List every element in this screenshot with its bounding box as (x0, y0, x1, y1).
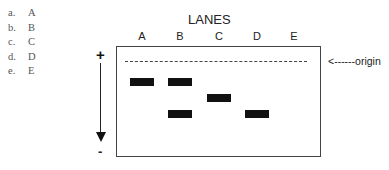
lane-label-b: B (170, 30, 190, 42)
lane-label-a: A (132, 30, 152, 42)
origin-line (125, 61, 307, 62)
option-d[interactable]: d.D (8, 50, 36, 65)
migration-arrow-shaft (100, 63, 101, 135)
lane-label-e: E (284, 30, 304, 42)
lanes-title: LANES (188, 12, 231, 27)
option-c[interactable]: c.C (8, 35, 36, 50)
lane-label-c: C (209, 30, 229, 42)
option-e[interactable]: e.E (8, 64, 36, 79)
arrow-down-icon (96, 132, 106, 142)
negative-pole: - (98, 144, 102, 159)
answer-options: a.A b.B c.C d.D e.E (8, 6, 36, 79)
positive-pole: + (96, 46, 105, 63)
band-lane-b-upper (168, 78, 192, 86)
band-lane-d (245, 110, 269, 118)
band-lane-c (207, 94, 231, 102)
option-a[interactable]: a.A (8, 6, 36, 21)
lane-label-d: D (247, 30, 267, 42)
option-b[interactable]: b.B (8, 21, 36, 36)
origin-label: <------origin (328, 55, 381, 67)
band-lane-a (130, 78, 154, 86)
band-lane-b-lower (168, 110, 192, 118)
